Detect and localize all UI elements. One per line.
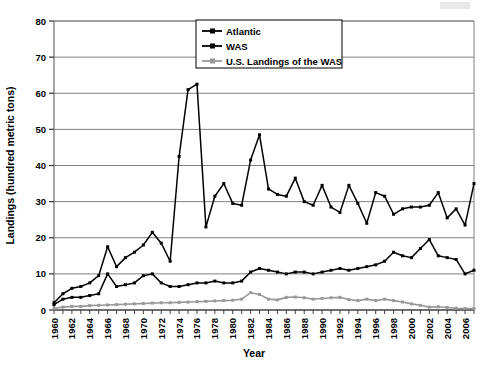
series-marker-2 [374, 299, 377, 302]
series-marker-2 [187, 301, 190, 304]
series-marker-1 [106, 272, 109, 275]
series-marker-1 [303, 271, 306, 274]
series-marker-2 [338, 296, 341, 299]
legend-label-1: WAS [226, 41, 248, 52]
series-marker-1 [338, 267, 341, 270]
line-chart: 01020304050607080Landings (hundred metri… [0, 0, 487, 369]
series-marker-2 [115, 303, 118, 306]
series-marker-0 [53, 301, 56, 304]
series-marker-1 [285, 272, 288, 275]
series-marker-1 [160, 281, 163, 284]
series-marker-2 [178, 301, 181, 304]
series-marker-0 [151, 231, 154, 234]
series-marker-1 [267, 269, 270, 272]
series-marker-2 [169, 301, 172, 304]
series-marker-2 [222, 299, 225, 302]
series-marker-1 [321, 271, 324, 274]
series-marker-1 [401, 254, 404, 257]
series-marker-0 [88, 281, 91, 284]
ytick-label-70: 70 [35, 52, 46, 63]
series-marker-2 [446, 306, 449, 309]
series-marker-0 [347, 184, 350, 187]
series-marker-0 [464, 224, 467, 227]
series-marker-0 [294, 177, 297, 180]
xtick-label-1974: 1974 [174, 317, 185, 339]
xtick-label-1986: 1986 [281, 318, 292, 339]
series-marker-2 [124, 303, 127, 306]
ytick-label-30: 30 [35, 196, 46, 207]
series-marker-1 [276, 271, 279, 274]
series-marker-0 [160, 242, 163, 245]
series-marker-0 [240, 204, 243, 207]
y-axis-title: Landings (hundred metric tons) [4, 86, 16, 244]
xtick-label-2002: 2002 [424, 318, 435, 339]
series-marker-2 [88, 304, 91, 307]
series-marker-1 [79, 296, 82, 299]
series-marker-2 [410, 302, 413, 305]
series-marker-1 [88, 294, 91, 297]
xtick-label-1966: 1966 [102, 318, 113, 339]
series-marker-2 [419, 304, 422, 307]
series-marker-0 [312, 204, 315, 207]
xtick-label-1976: 1976 [191, 318, 202, 339]
series-marker-2 [428, 306, 431, 309]
series-marker-2 [204, 300, 207, 303]
series-marker-0 [321, 184, 324, 187]
series-marker-1 [115, 285, 118, 288]
series-marker-0 [410, 206, 413, 209]
legend-swatch-marker-1 [210, 44, 215, 49]
xtick-label-1990: 1990 [317, 318, 328, 339]
series-marker-0 [455, 207, 458, 210]
xtick-label-1984: 1984 [263, 317, 274, 339]
legend-label-0: Atlantic [226, 26, 261, 37]
xtick-label-2000: 2000 [406, 318, 417, 339]
series-marker-2 [455, 307, 458, 310]
series-marker-2 [401, 301, 404, 304]
series-marker-1 [374, 263, 377, 266]
ytick-label-80: 80 [35, 16, 46, 27]
series-marker-1 [169, 285, 172, 288]
series-marker-0 [169, 260, 172, 263]
series-marker-0 [222, 182, 225, 185]
series-marker-1 [312, 272, 315, 275]
xtick-label-1964: 1964 [84, 317, 95, 339]
series-marker-2 [312, 298, 315, 301]
xtick-label-1980: 1980 [227, 318, 238, 339]
series-marker-0 [97, 274, 100, 277]
series-marker-0 [106, 245, 109, 248]
series-marker-0 [231, 202, 234, 205]
series-marker-0 [285, 195, 288, 198]
series-marker-2 [133, 302, 136, 305]
ytick-label-40: 40 [35, 160, 46, 171]
series-marker-2 [142, 302, 145, 305]
xtick-label-1978: 1978 [209, 318, 220, 339]
series-marker-1 [347, 269, 350, 272]
series-marker-2 [97, 304, 100, 307]
series-marker-2 [61, 306, 64, 309]
ytick-label-10: 10 [35, 268, 46, 279]
ytick-label-60: 60 [35, 88, 46, 99]
series-marker-1 [70, 296, 73, 299]
series-marker-1 [437, 254, 440, 257]
xtick-label-1962: 1962 [66, 318, 77, 339]
series-marker-1 [142, 274, 145, 277]
series-marker-0 [187, 88, 190, 91]
series-marker-0 [70, 287, 73, 290]
series-marker-1 [365, 265, 368, 268]
series-marker-0 [124, 256, 127, 259]
series-marker-0 [303, 200, 306, 203]
xtick-label-1996: 1996 [370, 318, 381, 339]
series-marker-1 [124, 283, 127, 286]
series-marker-2 [53, 307, 56, 310]
series-marker-0 [374, 191, 377, 194]
series-marker-1 [213, 280, 216, 283]
series-marker-1 [392, 251, 395, 254]
series-marker-1 [195, 281, 198, 284]
series-marker-0 [115, 265, 118, 268]
series-marker-0 [392, 213, 395, 216]
xtick-label-1970: 1970 [138, 318, 149, 339]
series-marker-2 [151, 302, 154, 305]
series-marker-0 [419, 206, 422, 209]
series-marker-2 [258, 293, 261, 296]
series-marker-1 [410, 256, 413, 259]
